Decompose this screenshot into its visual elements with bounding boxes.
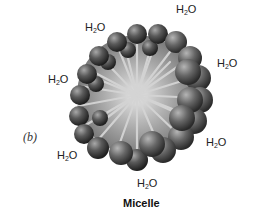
water-label: H2O <box>85 22 105 34</box>
water-label: H2O <box>206 137 226 149</box>
water-label: H2O <box>48 74 68 86</box>
water-label: H2O <box>137 178 157 190</box>
water-label: H2O <box>176 4 196 16</box>
figure-caption: Micelle <box>123 197 160 209</box>
micelle-illustration <box>0 0 255 220</box>
water-label: H2O <box>217 58 237 70</box>
water-label: H2O <box>57 150 77 162</box>
panel-label: (b) <box>23 130 37 145</box>
